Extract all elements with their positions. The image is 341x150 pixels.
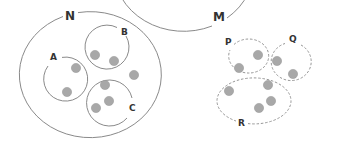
element-dot xyxy=(104,96,113,105)
set-m-outer-ellipse xyxy=(114,0,254,31)
subset-p-label: P xyxy=(225,37,232,47)
element-dot xyxy=(71,63,80,72)
element-dot xyxy=(253,50,262,59)
set-m: M P Q R xyxy=(114,0,312,128)
element-dot xyxy=(109,56,118,65)
element-dot xyxy=(62,87,71,96)
set-n-label: N xyxy=(65,9,75,23)
set-m-elements xyxy=(224,50,297,112)
subset-r-label: R xyxy=(238,118,245,128)
element-dot xyxy=(91,103,100,112)
subset-c-label: C xyxy=(129,103,136,113)
element-dot xyxy=(272,56,281,65)
subset-b-label: B xyxy=(121,27,128,37)
element-dot xyxy=(90,50,99,59)
set-m-label: M xyxy=(213,10,225,24)
element-dot xyxy=(254,103,263,112)
element-dot xyxy=(234,63,243,72)
venn-diagram: N A B C M P Q R xyxy=(0,0,341,150)
set-n-outer-ellipse xyxy=(19,12,161,138)
subset-q-label: Q xyxy=(289,34,297,44)
element-dot xyxy=(100,80,109,89)
subset-r-ellipse xyxy=(217,78,291,124)
element-dot xyxy=(224,86,233,95)
element-dot xyxy=(129,70,138,79)
set-n: N A B C xyxy=(19,9,161,138)
element-dot xyxy=(263,80,272,89)
element-dot xyxy=(288,69,297,78)
element-dot xyxy=(266,96,275,105)
subset-a-label: A xyxy=(50,52,57,62)
